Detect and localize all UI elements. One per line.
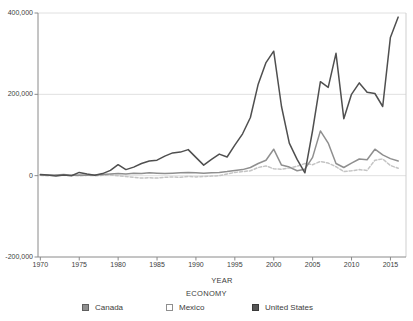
y-tick-label: 200,000 bbox=[0, 90, 33, 98]
x-tick-label: 2005 bbox=[298, 261, 328, 269]
axes bbox=[35, 13, 407, 261]
x-axis-title: YEAR bbox=[38, 276, 406, 285]
legend-label-canada: Canada bbox=[95, 303, 123, 312]
y-tick-label: -200,000 bbox=[0, 253, 33, 261]
legend-label-mexico: Mexico bbox=[179, 303, 204, 312]
x-tick-label: 2015 bbox=[375, 261, 405, 269]
mexico-swatch-icon bbox=[166, 304, 173, 311]
chart-canvas: 400,000200,0000-200,000 1970197519801985… bbox=[0, 0, 413, 321]
x-tick-label: 1970 bbox=[25, 261, 55, 269]
legend-label-united-states: United States bbox=[265, 303, 313, 312]
x-tick-label: 1985 bbox=[142, 261, 172, 269]
x-tick-label: 1995 bbox=[220, 261, 250, 269]
legend-item-united-states: United States bbox=[252, 302, 313, 312]
legend-item-canada: Canada bbox=[82, 302, 123, 312]
y-tick-label: 400,000 bbox=[0, 9, 33, 17]
series-line-canada bbox=[40, 131, 398, 175]
x-tick-label: 2000 bbox=[259, 261, 289, 269]
legend-title: ECONOMY bbox=[0, 289, 413, 298]
y-tick-label: 0 bbox=[0, 172, 33, 180]
x-tick-label: 1990 bbox=[181, 261, 211, 269]
x-tick-label: 1980 bbox=[103, 261, 133, 269]
united-states-swatch-icon bbox=[252, 304, 259, 311]
canada-swatch-icon bbox=[82, 304, 89, 311]
x-tick-label: 2010 bbox=[337, 261, 367, 269]
x-tick-label: 1975 bbox=[64, 261, 94, 269]
series-line-united-states bbox=[40, 17, 398, 176]
line-chart bbox=[0, 0, 413, 321]
legend-item-mexico: Mexico bbox=[166, 302, 204, 312]
